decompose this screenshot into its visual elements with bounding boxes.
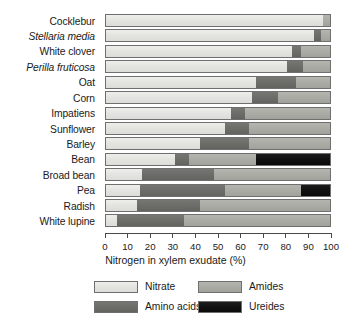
bar-segment-amino [287, 61, 303, 72]
x-axis-tick-labels: 0102030405060708090100 [105, 240, 331, 253]
bar-segment-amides [301, 46, 330, 57]
category-label: Broad bean [0, 168, 100, 183]
bar-segment-nitrate [106, 200, 137, 211]
legend-label: Ureides [249, 302, 284, 312]
category-label: Bean [0, 153, 100, 168]
x-axis-tick [331, 233, 332, 238]
category-label: Cocklebur [0, 14, 100, 29]
bar-segment-amides [184, 215, 330, 226]
bar-row [105, 184, 331, 197]
bar-segment-amino [314, 30, 321, 41]
x-axis-tick-label: 60 [235, 240, 246, 253]
category-label: Perilla fruticosa [0, 60, 100, 75]
x-axis-tick [308, 233, 309, 238]
bar-row [105, 168, 331, 181]
x-axis-tick-label: 70 [258, 240, 269, 253]
bar-segment-nitrate [106, 123, 225, 134]
bar-segment-amino [292, 46, 301, 57]
x-axis-tick [150, 233, 151, 238]
bar-row [105, 91, 331, 104]
bar-segment-amino [252, 92, 279, 103]
bar-segment-amides [249, 138, 330, 149]
bar-segment-nitrate [106, 185, 140, 196]
bar-segment-nitrate [106, 46, 292, 57]
bar-row [105, 153, 331, 166]
bar-segment-amino [200, 138, 249, 149]
x-axis-tick-label: 20 [145, 240, 156, 253]
bar-segment-amides [296, 77, 330, 88]
bar-segment-amino [142, 169, 214, 180]
x-axis-tick [127, 233, 128, 238]
legend-item-amino: Amino acids [94, 301, 198, 313]
bar-segment-amides [323, 15, 330, 26]
bar-row [105, 107, 331, 120]
bar-segment-amino [117, 215, 184, 226]
bar-segment-amides [189, 154, 256, 165]
bar-segment-nitrate [106, 154, 175, 165]
bar-segment-nitrate [106, 15, 323, 26]
bar-segment-amides [249, 123, 330, 134]
x-axis-tick-label: 80 [280, 240, 291, 253]
bar-row [105, 14, 331, 27]
bar-segment-amino [225, 123, 250, 134]
bar-segment-nitrate [106, 30, 314, 41]
bar-segment-amides [214, 169, 330, 180]
legend-item-nitrate: Nitrate [94, 281, 198, 293]
legend-label: Amides [249, 282, 283, 292]
x-axis-tick-label: 50 [213, 240, 224, 253]
legend-label: Amino acids [145, 302, 201, 312]
x-axis-tick [195, 233, 196, 238]
bar-segment-nitrate [106, 77, 256, 88]
category-label: Barley [0, 137, 100, 152]
x-axis-tick-label: 40 [190, 240, 201, 253]
bar-segment-amides [200, 200, 330, 211]
x-axis-tick [172, 233, 173, 238]
legend-swatch-nitrate [94, 281, 138, 293]
x-axis-tick [240, 233, 241, 238]
bar-row [105, 45, 331, 58]
bar-segment-amino [137, 200, 200, 211]
x-axis-tick [105, 233, 106, 238]
x-axis-tick-label: 100 [323, 240, 339, 253]
bar-segment-nitrate [106, 108, 231, 119]
legend-label: Nitrate [145, 282, 175, 292]
category-label: Stellaria media [0, 29, 100, 44]
category-label: White clover [0, 45, 100, 60]
bar-row [105, 137, 331, 150]
bar-segment-nitrate [106, 215, 117, 226]
legend-swatch-amino [94, 301, 138, 313]
bar-segment-amides [278, 92, 330, 103]
x-axis-tick [285, 233, 286, 238]
x-axis-tick-label: 30 [167, 240, 178, 253]
category-label: Corn [0, 91, 100, 106]
bar-segment-amides [321, 30, 330, 41]
bar-segment-amino [256, 77, 296, 88]
bar-segment-nitrate [106, 138, 200, 149]
category-label: Impatiens [0, 107, 100, 122]
x-axis-tick-label: 0 [102, 240, 107, 253]
plot-area [105, 14, 331, 230]
bar-segment-nitrate [106, 169, 142, 180]
x-axis-tick-label: 10 [122, 240, 133, 253]
bar-segment-nitrate [106, 92, 252, 103]
x-axis-title: Nitrogen in xylem exudate (%) [0, 254, 351, 266]
bar-row [105, 214, 331, 227]
stacked-bar-chart-figure: CockleburStellaria mediaWhite cloverPeri… [0, 0, 351, 324]
bar-row [105, 76, 331, 89]
bar-segment-ureides [256, 154, 330, 165]
category-label: Radish [0, 199, 100, 214]
category-label: Sunflower [0, 122, 100, 137]
legend-swatch-ureides [198, 301, 242, 313]
x-axis-tick-label: 90 [303, 240, 314, 253]
bar-segment-amino [140, 185, 225, 196]
bar-segment-amides [303, 61, 330, 72]
category-axis-labels: CockleburStellaria mediaWhite cloverPeri… [0, 14, 100, 230]
bar-row [105, 60, 331, 73]
bar-segment-ureides [301, 185, 330, 196]
bar-row [105, 199, 331, 212]
legend-item-amides: Amides [198, 281, 304, 293]
bar-segment-amino [231, 108, 244, 119]
x-axis-tick [263, 233, 264, 238]
chart-legend: NitrateAmidesAmino acidsUreides [94, 277, 304, 319]
legend-item-ureides: Ureides [198, 301, 304, 313]
